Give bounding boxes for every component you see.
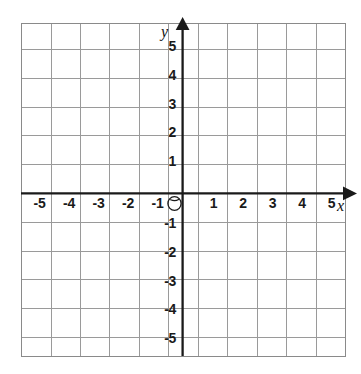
x-tick-label--4: -4 bbox=[55, 196, 84, 210]
x-tick-label-1: 1 bbox=[199, 196, 228, 210]
y-tick-label--1: -1 bbox=[148, 216, 176, 230]
y-tick-label-3: 3 bbox=[152, 97, 176, 111]
y-tick-label--4: -4 bbox=[148, 302, 176, 316]
x-tick-label--3: -3 bbox=[84, 196, 113, 210]
graph-canvas bbox=[0, 0, 361, 374]
y-tick-label--5: -5 bbox=[148, 331, 176, 345]
x-tick-label--5: -5 bbox=[25, 196, 54, 210]
x-tick-label-3: 3 bbox=[258, 196, 287, 210]
y-axis-label: y bbox=[161, 24, 168, 40]
y-tick-label-5: 5 bbox=[152, 39, 176, 53]
x-tick-label-4: 4 bbox=[288, 196, 317, 210]
x-tick-label--1: -1 bbox=[143, 196, 172, 210]
x-tick-label--2: -2 bbox=[114, 196, 143, 210]
y-tick-label-1: 1 bbox=[152, 154, 176, 168]
y-tick-label-4: 4 bbox=[152, 68, 176, 82]
coordinate-grid-figure: -5 -4 -3 -2 -1 1 2 3 4 5 5 4 3 2 1 -1 -2… bbox=[0, 0, 361, 374]
x-axis-label: x bbox=[337, 198, 344, 214]
y-tick-label--2: -2 bbox=[148, 245, 176, 259]
y-tick-label--3: -3 bbox=[148, 274, 176, 288]
x-tick-label-2: 2 bbox=[229, 196, 258, 210]
y-axis-line bbox=[176, 17, 190, 356]
y-tick-label-2: 2 bbox=[152, 125, 176, 139]
